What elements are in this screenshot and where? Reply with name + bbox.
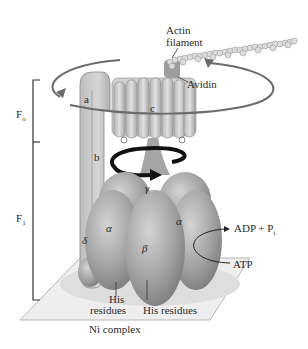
label-filament: filament [166,36,203,48]
label-subunit-delta: δ [82,234,87,246]
label-f-1: F1 [16,212,26,226]
bracket [33,80,40,300]
label-subunit-gamma: γ [145,182,149,194]
label-subunit-beta: β [142,242,147,254]
label-subunit-alpha-left: α [106,222,112,234]
label-avidin: Avidin [187,78,217,90]
label-subunit-alpha-right: α [176,215,182,227]
f1-hexamer [85,172,222,306]
label-subunit-b: b [94,151,100,163]
label-atp: ATP [233,258,253,270]
label-actin: Actin [166,24,190,36]
label-his-right: His residues [143,304,197,316]
actin-pointer [172,48,178,58]
label-adp-pi: ADP + Pi [234,222,275,236]
label-ni-complex: Ni complex [89,323,141,335]
atp-synthase-diagram: Actin filament Avidin Fo F1 a b c γ δ α … [0,0,308,349]
label-subunit-a: a [84,93,89,105]
label-f-o: Fo [16,108,26,122]
diagram-canvas [0,0,308,349]
gamma-stalk [140,138,170,175]
label-his-left-2: residues [90,304,126,316]
label-subunit-c: c [150,102,155,114]
